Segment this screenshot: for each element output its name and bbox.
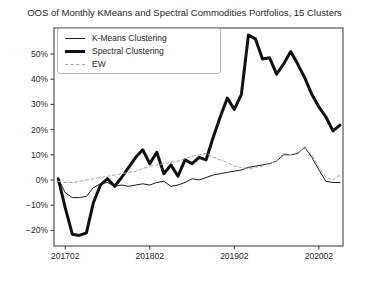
legend: K-Means Clustering Spectral Clustering E…	[57, 28, 221, 74]
x-tick-label: 202002	[305, 251, 334, 261]
y-tick-label: 0%	[36, 175, 49, 185]
spectral-line-icon	[65, 50, 85, 53]
x-tick-label: 201702	[51, 251, 80, 261]
y-tick-label: 50%	[31, 49, 48, 59]
legend-label-kmeans: K-Means Clustering	[92, 33, 167, 43]
x-tick-label: 201902	[220, 251, 249, 261]
y-tick-label: 40%	[31, 74, 48, 84]
kmeans-line-icon	[65, 38, 85, 39]
y-tick-label: 30%	[31, 99, 48, 109]
legend-item-ew: EW	[65, 59, 213, 69]
ew-line-icon	[65, 64, 85, 65]
legend-label-spectral: Spectral Clustering	[92, 46, 164, 56]
chart-figure: OOS of Monthly KMeans and Spectral Commo…	[0, 0, 369, 284]
y-tick-label: 20%	[31, 125, 48, 135]
y-tick-label: 10%	[31, 150, 48, 160]
y-tick-label: −20%	[26, 225, 48, 235]
x-tick-label: 201802	[136, 251, 165, 261]
legend-item-kmeans: K-Means Clustering	[65, 33, 213, 43]
legend-label-ew: EW	[92, 59, 106, 69]
legend-item-spectral: Spectral Clustering	[65, 46, 213, 56]
y-tick-label: −10%	[26, 200, 48, 210]
